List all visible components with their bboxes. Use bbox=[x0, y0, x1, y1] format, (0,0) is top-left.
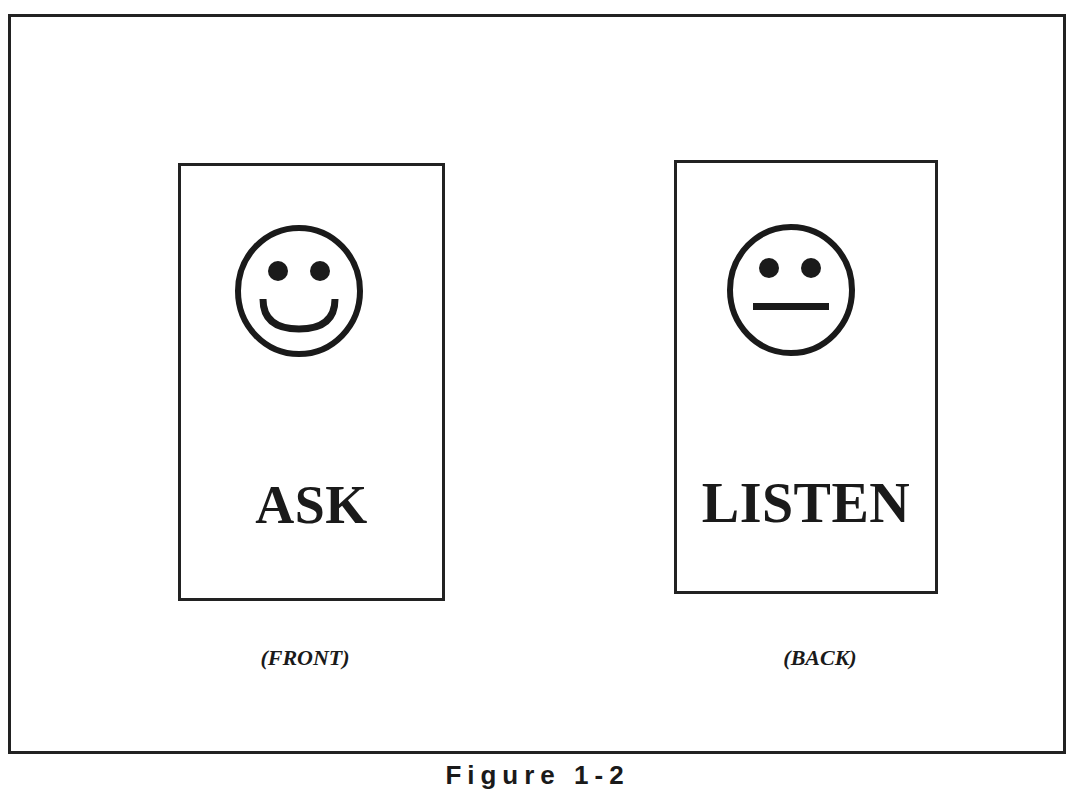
figure-caption: Figure 1-2 bbox=[0, 760, 1075, 791]
front-label: (FRONT) bbox=[245, 645, 365, 671]
neutral-face-icon bbox=[725, 221, 857, 359]
card-word-ask: ASK bbox=[181, 478, 442, 532]
front-card: ASK bbox=[178, 163, 445, 601]
back-label: (BACK) bbox=[765, 645, 875, 671]
back-card: LISTEN bbox=[674, 160, 938, 594]
card-word-listen: LISTEN bbox=[677, 475, 935, 531]
smiley-face-icon bbox=[233, 221, 365, 361]
